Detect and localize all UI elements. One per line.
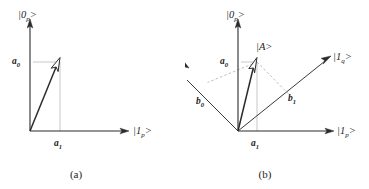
panel-b: |0p> |1p> |0q> |1q> |A> a0 a1 b0 [185,0,369,189]
amplitude-a0-label: a0 [12,56,21,68]
amplitude-b1-label: b1 [288,93,296,105]
state-vector-line [30,66,57,131]
state-ket-label: |A> [256,41,272,52]
panel-b-caption: (b) [259,168,272,181]
amplitude-b0-label: b0 [196,96,205,108]
q-one-axis-label: |1q> [333,51,352,65]
q-zero-axis-line [187,80,238,131]
vertical-axis-label: |0p> [226,9,245,23]
amplitude-a0-label: a0 [220,56,229,68]
amplitude-a1-label: a1 [54,138,62,150]
q-zero-axis-leader-arrowhead [185,61,189,68]
horizontal-axis-label: |1p> [337,125,356,139]
projection-dash-b1 [257,62,290,96]
vertical-axis-label: |0p> [18,9,37,23]
state-vector-line [238,67,254,131]
projection-dash-b0 [208,62,258,83]
panel-a-caption: (a) [70,168,83,181]
panel-a: |0p> |1p> a0 a1 (a) [0,0,185,189]
quantum-basis-figure: |0p> |1p> a0 a1 (a) [0,0,369,189]
amplitude-a1-label: a1 [251,138,259,150]
horizontal-axis-label: |1p> [133,125,152,139]
q-one-axis-line [238,61,325,131]
